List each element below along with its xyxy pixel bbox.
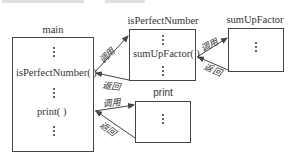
call-return-arrows	[0, 0, 291, 160]
edge-label-return: 返回	[101, 78, 121, 93]
edge-label-call: 调用	[102, 95, 121, 110]
